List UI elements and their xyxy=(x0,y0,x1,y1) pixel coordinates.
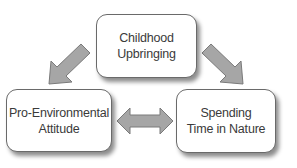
arrow-childhood-to-attitude xyxy=(49,44,90,84)
node-pro-environmental-attitude: Pro-Environmental Attitude xyxy=(6,89,112,152)
arrow-childhood-to-nature xyxy=(202,44,243,84)
node-label: Pro-Environmental Attitude xyxy=(9,105,109,137)
node-label: Childhood Upbringing xyxy=(117,30,175,62)
arrow-attitude-nature-bidirectional xyxy=(117,108,173,134)
node-spending-time-in-nature: Spending Time in Nature xyxy=(176,89,276,153)
node-label: Spending Time in Nature xyxy=(187,105,266,137)
node-childhood-upbringing: Childhood Upbringing xyxy=(96,14,197,78)
